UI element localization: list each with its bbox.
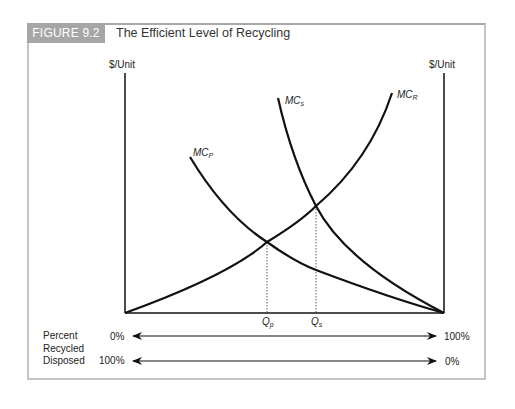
qp-label: Qp: [262, 316, 274, 331]
row-label-disposed: Disposed: [43, 355, 85, 367]
mcs-curve: [278, 98, 444, 313]
qs-label: Qs: [311, 316, 322, 331]
right-y-axis-label: $/Unit: [429, 59, 455, 71]
mcr-curve: [125, 93, 392, 313]
row-label-recycled: Recycled: [43, 343, 84, 355]
mcp-label: MCP: [193, 147, 213, 162]
mcr-label: MCR: [397, 89, 418, 104]
left-y-axis-label: $/Unit: [109, 59, 135, 71]
row-label-percent: Percent: [43, 330, 77, 342]
mcp-curve: [190, 157, 444, 313]
recycled-right-value: 100%: [444, 331, 470, 343]
disposed-left-value: 100%: [99, 355, 125, 367]
disposed-right-value: 0%: [445, 356, 459, 368]
mcs-label: MCs: [285, 95, 304, 110]
recycled-left-value: 0%: [110, 331, 124, 343]
